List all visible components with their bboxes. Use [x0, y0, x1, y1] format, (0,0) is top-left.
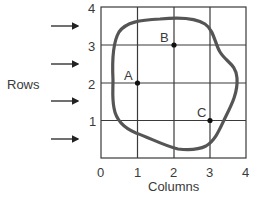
x-tick-3: 3 — [206, 165, 213, 180]
region-outline — [113, 18, 237, 150]
point-a-label: A — [124, 68, 133, 83]
y-tick-labels: 4 3 2 1 — [88, 1, 96, 129]
point-c-label: C — [197, 105, 206, 120]
grid-diagram: A B C 4 3 2 1 0 1 2 3 4 Columns Rows — [0, 0, 258, 203]
y-tick-1: 1 — [89, 114, 96, 129]
x-tick-4: 4 — [242, 165, 249, 180]
point-a — [135, 80, 140, 85]
point-b-label: B — [160, 30, 169, 45]
x-tick-labels: 0 1 2 3 4 — [97, 165, 249, 180]
y-tick-2: 2 — [88, 77, 95, 92]
y-axis-label: Rows — [7, 77, 40, 92]
x-tick-0: 0 — [97, 165, 104, 180]
x-axis-label: Columns — [148, 179, 200, 194]
point-b — [171, 42, 176, 47]
x-tick-2: 2 — [170, 165, 177, 180]
point-c — [207, 118, 212, 123]
y-tick-3: 3 — [88, 39, 95, 54]
x-tick-1: 1 — [134, 165, 141, 180]
row-arrows — [51, 26, 78, 139]
y-tick-4: 4 — [88, 1, 95, 16]
